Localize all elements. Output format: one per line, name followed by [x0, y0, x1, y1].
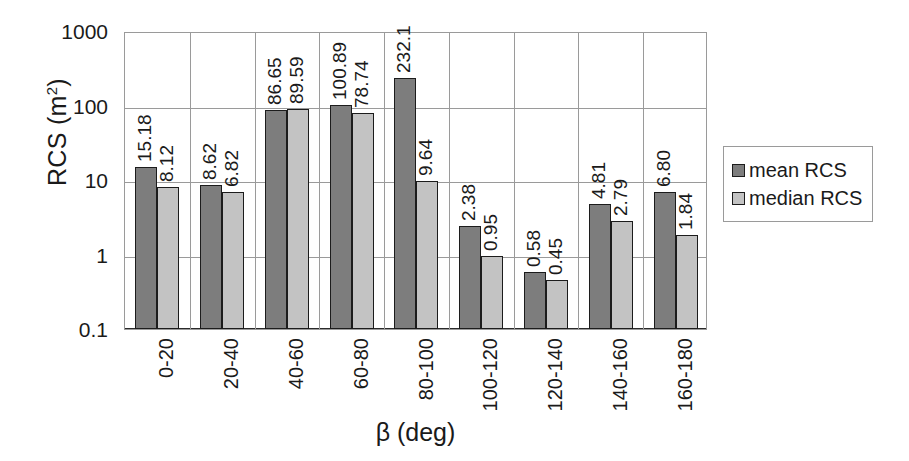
- legend-item[interactable]: median RCS: [732, 184, 862, 212]
- bar-value-label: 8.12: [157, 145, 176, 182]
- bar-value-label: 1.84: [676, 193, 695, 230]
- legend-label: mean RCS: [749, 160, 847, 180]
- bar-value-label: 9.64: [416, 139, 435, 176]
- x-axis-title: β (deg): [124, 418, 707, 446]
- x-axis-tick-label-text: 20-40: [221, 338, 241, 389]
- bar-mean[interactable]: 0.58: [524, 272, 546, 329]
- bar-mean[interactable]: 100.89: [330, 105, 352, 329]
- chart-figure: RCS (m2) 10001001010.1 15.188.128.626.82…: [0, 0, 909, 461]
- y-axis-tick-labels: 10001001010.1: [30, 32, 116, 330]
- bar-median[interactable]: 0.95: [481, 256, 503, 329]
- bar-mean[interactable]: 86.65: [265, 110, 287, 329]
- plot-area: 15.188.128.626.8286.6589.59100.8978.7423…: [124, 32, 707, 330]
- bar-mean[interactable]: 2.38: [459, 226, 481, 329]
- bar-value-label: 100.89: [330, 42, 349, 100]
- bar-median[interactable]: 8.12: [157, 187, 179, 329]
- bar-mean[interactable]: 232.1: [394, 78, 416, 329]
- y-axis-tick-label: 0.1: [79, 319, 108, 340]
- bar-group: 86.6589.59: [255, 33, 320, 329]
- bar-median[interactable]: 1.84: [676, 235, 698, 329]
- x-axis-tick-label: 120-140: [545, 338, 618, 358]
- x-axis-tick-label-text: 80-100: [416, 338, 436, 400]
- x-axis-tick-label-text: 160-180: [675, 338, 695, 411]
- bar-median[interactable]: 9.64: [416, 181, 438, 329]
- chart-legend: mean RCSmedian RCS: [723, 146, 873, 222]
- legend-swatch: [732, 164, 745, 177]
- bar-value-label: 232.1: [394, 26, 413, 74]
- x-axis-tick-label: 40-60: [286, 338, 337, 358]
- bar-value-label: 6.80: [654, 151, 673, 188]
- bar-value-label: 15.18: [135, 114, 154, 162]
- legend-label: median RCS: [749, 188, 862, 208]
- bar-value-label: 4.81: [589, 162, 608, 199]
- bar-value-label: 0.95: [481, 214, 500, 251]
- bar-value-label: 89.59: [287, 57, 306, 105]
- bar-group: 0.580.45: [514, 33, 579, 329]
- x-axis-tick-label: 140-160: [610, 338, 683, 358]
- y-axis-tick-label: 100: [73, 96, 108, 117]
- bar-value-label: 86.65: [265, 58, 284, 106]
- x-axis-tick-label: 80-100: [416, 338, 478, 358]
- bar-median[interactable]: 89.59: [287, 109, 309, 329]
- bar-value-label: 0.58: [524, 230, 543, 267]
- legend-item[interactable]: mean RCS: [732, 156, 862, 184]
- bar-value-label: 8.62: [200, 143, 219, 180]
- x-axis-tick-label-text: 140-160: [610, 338, 630, 411]
- bar-mean[interactable]: 6.80: [654, 192, 676, 329]
- bar-group: 15.188.12: [125, 33, 190, 329]
- x-axis-tick-label-text: 60-80: [351, 338, 371, 389]
- bar-median[interactable]: 78.74: [352, 113, 374, 329]
- x-axis-tick-labels: 0-2020-4040-6060-8080-100100-120120-1401…: [124, 332, 707, 416]
- y-axis-tick-label: 1000: [61, 21, 108, 42]
- x-axis-tick-label-text: 0-20: [156, 338, 176, 378]
- x-axis-tick-label-text: 120-140: [545, 338, 565, 411]
- x-axis-tick-label: 0-20: [156, 338, 196, 358]
- bar-median[interactable]: 2.79: [611, 221, 633, 329]
- bar-median[interactable]: 6.82: [222, 192, 244, 329]
- bar-group: 6.801.84: [643, 33, 708, 329]
- bar-group: 4.812.79: [578, 33, 643, 329]
- bar-value-label: 6.82: [222, 150, 241, 187]
- bar-value-label: 0.45: [546, 238, 565, 275]
- y-axis-tick-label: 10: [85, 170, 108, 191]
- x-axis-tick-label: 20-40: [221, 338, 272, 358]
- bar-value-label: 2.79: [611, 179, 630, 216]
- bar-group: 8.626.82: [190, 33, 255, 329]
- x-axis-tick-label: 100-120: [480, 338, 553, 358]
- x-axis-tick-label: 60-80: [351, 338, 402, 358]
- legend-swatch: [732, 192, 745, 205]
- bar-mean[interactable]: 8.62: [200, 185, 222, 329]
- bar-mean[interactable]: 4.81: [589, 204, 611, 329]
- bar-value-label: 2.38: [459, 184, 478, 221]
- x-axis-tick-label-text: 40-60: [286, 338, 306, 389]
- bar-group: 232.19.64: [384, 33, 449, 329]
- bar-group: 2.380.95: [449, 33, 514, 329]
- bar-group: 100.8978.74: [319, 33, 384, 329]
- x-axis-tick-label: 160-180: [675, 338, 748, 358]
- x-axis-tick-label-text: 100-120: [480, 338, 500, 411]
- bar-mean[interactable]: 15.18: [135, 167, 157, 330]
- y-axis-tick-label: 1: [96, 245, 108, 266]
- bar-median[interactable]: 0.45: [546, 280, 568, 329]
- bar-value-label: 78.74: [352, 61, 371, 109]
